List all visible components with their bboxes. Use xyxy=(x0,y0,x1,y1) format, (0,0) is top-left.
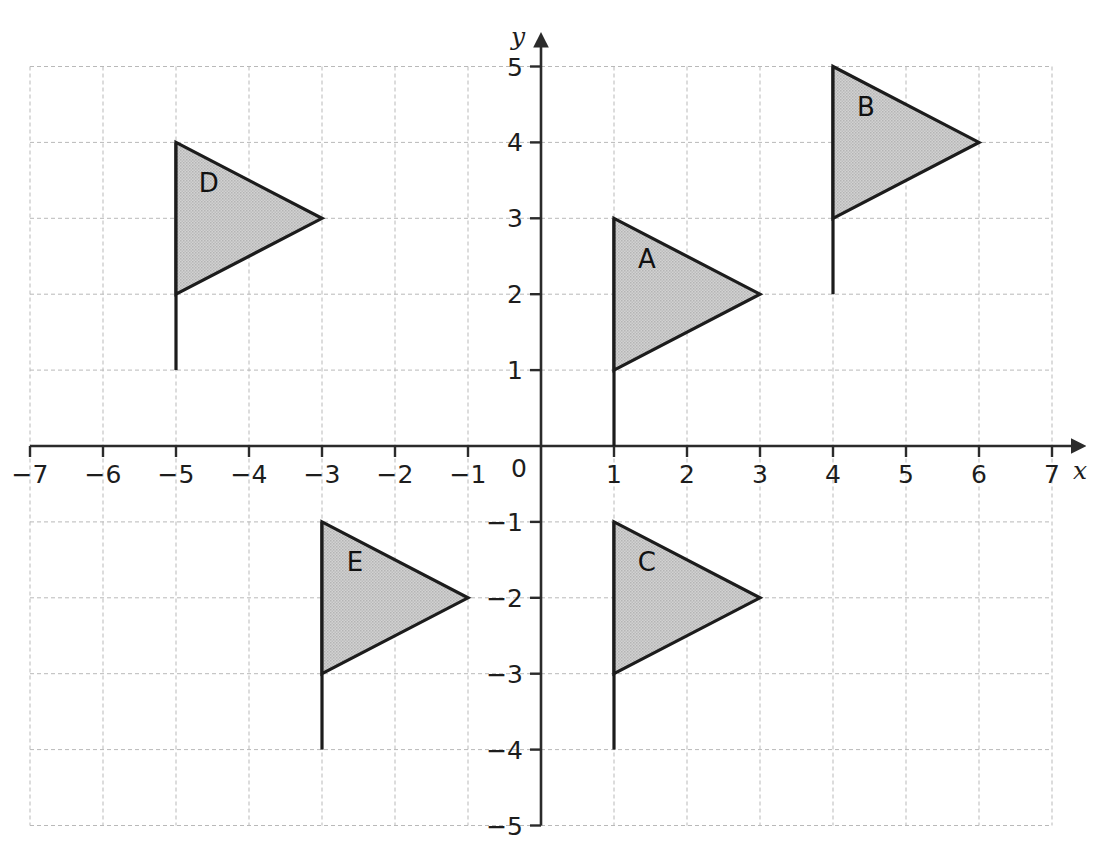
x-tick-label: −1 xyxy=(450,460,487,489)
flag-label-e: E xyxy=(347,547,363,577)
origin-label: 0 xyxy=(511,454,527,483)
x-tick-label: 7 xyxy=(1044,460,1060,489)
x-tick-label: −4 xyxy=(231,460,268,489)
y-tick-label: −1 xyxy=(486,508,523,537)
x-tick-label: 6 xyxy=(971,460,987,489)
y-tick-label: −4 xyxy=(486,736,523,765)
coordinate-plane-svg: ABCDE −7−6−5−4−3−2−112345670−5−4−3−2−112… xyxy=(0,0,1100,849)
flag-c: C xyxy=(614,522,760,750)
x-tick-label: −2 xyxy=(377,460,414,489)
x-tick-label: 1 xyxy=(606,460,622,489)
y-tick-label: 4 xyxy=(507,128,523,157)
flag-e: E xyxy=(322,522,468,750)
x-tick-label: −3 xyxy=(304,460,341,489)
x-tick-label: −6 xyxy=(85,460,122,489)
y-tick-label: 3 xyxy=(507,204,523,233)
y-axis-label: y xyxy=(510,22,526,51)
x-axis-label: x xyxy=(1073,456,1087,485)
y-tick-label: −3 xyxy=(486,660,523,689)
x-tick-label: 4 xyxy=(825,460,841,489)
y-tick-label: 2 xyxy=(507,280,523,309)
x-tick-label: −5 xyxy=(158,460,195,489)
coordinate-plane-figure: ABCDE −7−6−5−4−3−2−112345670−5−4−3−2−112… xyxy=(0,0,1100,849)
flag-label-d: D xyxy=(199,168,219,198)
y-tick-label: 1 xyxy=(507,356,523,385)
x-tick-label: 3 xyxy=(752,460,768,489)
x-tick-label: −7 xyxy=(12,460,49,489)
y-tick-label: 5 xyxy=(507,53,523,82)
x-tick-label: 5 xyxy=(898,460,914,489)
flag-shapes: ABCDE xyxy=(176,67,979,750)
flag-label-c: C xyxy=(638,547,656,577)
y-tick-label: −2 xyxy=(486,584,523,613)
y-tick-label: −5 xyxy=(486,812,523,841)
flag-label-a: A xyxy=(638,244,656,274)
flag-label-b: B xyxy=(857,92,875,122)
x-tick-label: 2 xyxy=(679,460,695,489)
flag-b: B xyxy=(833,67,979,295)
